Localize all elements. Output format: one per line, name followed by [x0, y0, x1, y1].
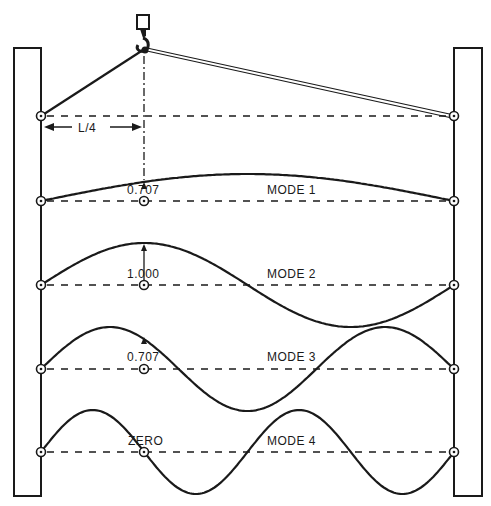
mode-1-label: MODE 1 [267, 183, 316, 197]
mode-1-value: 0.707 [127, 183, 160, 197]
mode-2-curve [41, 243, 454, 327]
mode-4-label: MODE 4 [267, 434, 316, 448]
mode-4-value: ZERO [128, 434, 163, 448]
mode-2-label: MODE 2 [267, 267, 316, 281]
right-sling-b [147, 51, 452, 118]
mode-1-curve [41, 174, 454, 201]
left-sling [41, 50, 143, 116]
mode-shape-diagram: L/4 0.707 1.000 0.707 ZERO MODE 1 MODE 2… [0, 0, 491, 506]
baselines [47, 116, 450, 452]
amplitude-arrows [141, 182, 147, 344]
mode-4-curve [41, 410, 454, 494]
right-sling-a [147, 48, 454, 115]
quarter-span-dimension: L/4 [44, 121, 142, 135]
mode-3-value: 0.707 [127, 350, 160, 364]
quarter-span-label: L/4 [78, 121, 96, 135]
mode-3-label: MODE 3 [267, 350, 316, 364]
mode-2-value: 1.000 [127, 267, 160, 281]
